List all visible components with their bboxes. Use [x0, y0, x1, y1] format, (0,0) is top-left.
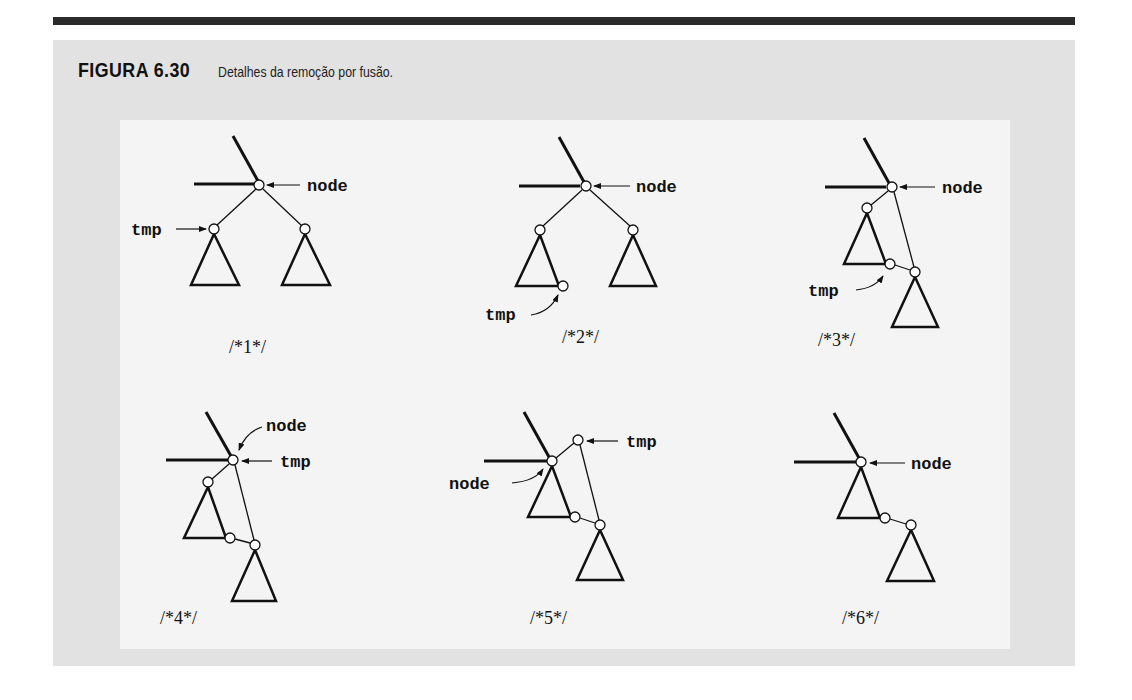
- step-label-6: /*6*/: [842, 608, 879, 628]
- tmp-label-4: tmp: [280, 453, 311, 472]
- node-label-3: node: [942, 179, 983, 198]
- step-label-2: /*2*/: [562, 327, 599, 347]
- node-label-5: node: [449, 475, 490, 494]
- node-label-6: node: [911, 455, 952, 474]
- step-label-4: /*4*/: [160, 608, 197, 628]
- step-label-3: /*3*/: [818, 330, 855, 350]
- diagram-step-2: [516, 137, 656, 315]
- tmp-label-3: tmp: [808, 282, 839, 301]
- tmp-label-5: tmp: [626, 433, 657, 452]
- node-label-2: node: [636, 178, 677, 197]
- diagram-step-1: [176, 136, 330, 285]
- step-label-5: /*5*/: [530, 608, 567, 628]
- tmp-label-2: tmp: [485, 306, 516, 325]
- merge-deletion-diagrams: node tmp /*1*/ node tmp /*2*/ node tmp /…: [0, 0, 1132, 700]
- diagram-step-6: [794, 413, 934, 581]
- diagram-step-4: [166, 412, 276, 601]
- node-label-1: node: [307, 177, 348, 196]
- node-label-4: node: [266, 417, 307, 436]
- diagram-step-5: [484, 412, 623, 580]
- tmp-label-1: tmp: [131, 221, 162, 240]
- step-label-1: /*1*/: [229, 337, 266, 357]
- diagram-step-3: [825, 138, 938, 327]
